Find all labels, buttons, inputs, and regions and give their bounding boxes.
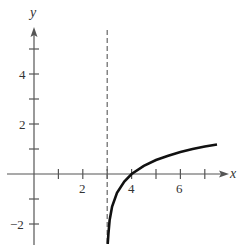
plot-area: x y 2 4 6 4 2 −2 [0, 0, 243, 245]
x-tick-label-4: 4 [128, 181, 135, 196]
y-tick-label-2: 2 [19, 117, 26, 132]
x-tick-label-2: 2 [79, 181, 86, 196]
x-axis-label: x [229, 166, 237, 181]
x-tick-label-6: 6 [176, 181, 183, 196]
graph: x y 2 4 6 4 2 −2 [0, 0, 243, 245]
y-axis-label: y [28, 5, 37, 20]
log-curve [108, 145, 217, 245]
y-tick-label-4: 4 [19, 67, 26, 82]
y-tick-label-neg2: −2 [10, 217, 24, 232]
axes [7, 27, 229, 245]
